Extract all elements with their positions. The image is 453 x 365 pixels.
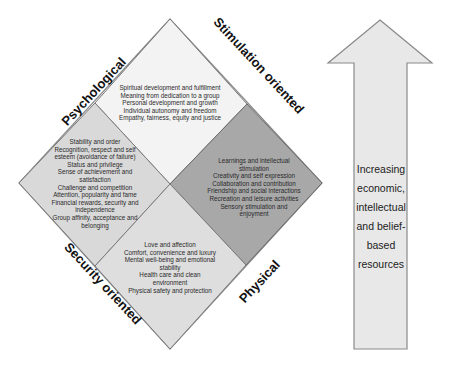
quadrant-left-line: Attention, popularity and fame: [37, 191, 153, 199]
quadrant-left-line: Recognition, respect and self: [37, 146, 153, 154]
arrow-text-line: and belief-: [354, 217, 408, 236]
quadrant-left-line: Status and privilege: [37, 161, 153, 169]
quadrant-right-text: Learnings and intellectual stimulation C…: [196, 157, 312, 218]
quadrant-bottom-line: stability: [117, 264, 223, 272]
arrow-text-line: Increasing: [354, 160, 408, 179]
quadrant-left-line: Sense of achievement and: [37, 168, 153, 176]
quadrant-left-line: independence: [37, 206, 153, 214]
quadrant-top-line: Personal development and growth: [110, 99, 230, 107]
quadrant-right-line: Recreation and leisure activities: [196, 195, 312, 203]
quadrant-bottom-line: Physical safety and protection: [117, 287, 223, 295]
quadrant-left-line: Challenge and competition: [37, 184, 153, 192]
quadrant-left-line: Stability and order: [37, 138, 153, 146]
arrow-text-line: intellectual: [354, 198, 408, 217]
quadrant-right-line: Learnings and intellectual: [196, 157, 312, 165]
quadrant-top-line: Meaning from dedication to a group: [110, 92, 230, 100]
arrow-text-line: based: [354, 236, 408, 255]
quadrant-top-line: Spiritual development and fulfillment: [110, 84, 230, 92]
arrow-text-line: economic,: [354, 179, 408, 198]
quadrant-bottom-line: Love and affection: [117, 241, 223, 249]
quadrant-top-line: Empathy, fairness, equity and justice: [110, 114, 230, 122]
quadrant-bottom-line: Health care and clean: [117, 271, 223, 279]
quadrant-left-line: Group affinity, acceptance and: [37, 214, 153, 222]
quadrant-top-text: Spiritual development and fulfillment Me…: [110, 84, 230, 122]
quadrant-right-line: Sensory stimulation and: [196, 203, 312, 211]
quadrant-bottom-line: Mental well-being and emotional: [117, 256, 223, 264]
quadrant-right-line: Collaboration and contribution: [196, 180, 312, 188]
quadrant-left-line: belonging: [37, 222, 153, 230]
quadrant-bottom-text: Love and affection Comfort, convenience …: [117, 241, 223, 294]
quadrant-bottom-line: environment: [117, 279, 223, 287]
quadrant-left-line: Financial rewards, security and: [37, 199, 153, 207]
arrow-text-line: resources: [354, 255, 408, 274]
quadrant-left-line: satisfaction: [37, 176, 153, 184]
quadrant-right-line: Friendship and social interactions: [196, 187, 312, 195]
quadrant-right-line: Creativity and self expression: [196, 172, 312, 180]
quadrant-left-text: Stability and order Recognition, respect…: [37, 138, 153, 229]
quadrant-right-line: stimulation: [196, 165, 312, 173]
quadrant-right-line: enjoyment: [196, 210, 312, 218]
quadrant-bottom-line: Comfort, convenience and luxury: [117, 249, 223, 257]
quadrant-top-line: Individual autonomy and freedom: [110, 107, 230, 115]
arrow-text: Increasing economic, intellectual and be…: [354, 160, 408, 274]
quadrant-left-line: esteem (avoidance of failure): [37, 153, 153, 161]
